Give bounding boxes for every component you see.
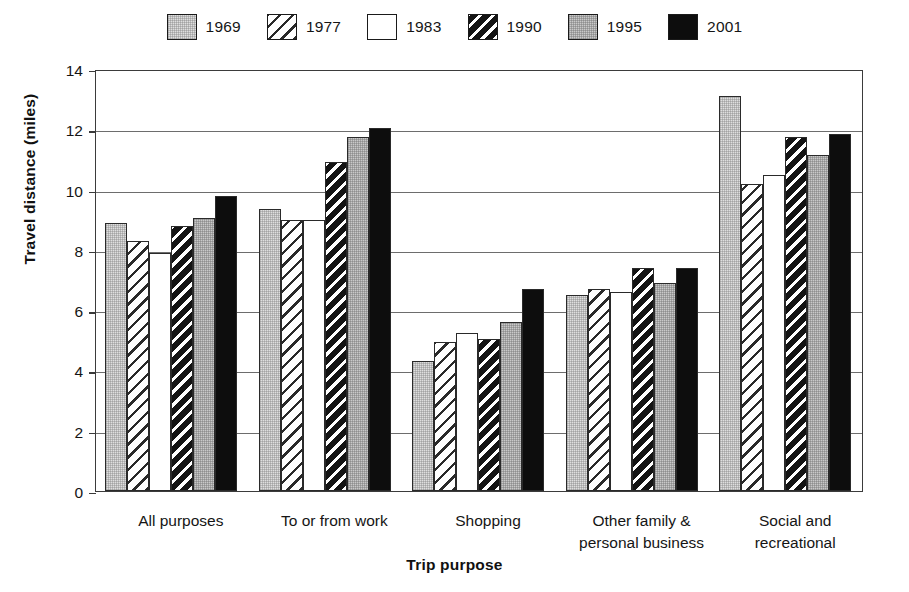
bar-1990-cat3 [632,268,654,491]
bar-2001-cat0 [215,196,237,491]
legend-swatch-1990 [468,14,498,40]
y-tick-label-10: 10 [66,183,83,201]
bar-1990-cat4 [785,137,807,491]
bar-1990-cat2 [478,339,500,491]
y-tickmark-4 [89,372,96,373]
y-tickmark-10 [89,192,96,193]
legend-item-1990: 1990 [468,14,542,40]
legend-label-1969: 1969 [206,18,241,36]
bar-chart: 196919771983199019952001 Travel distance… [0,0,909,592]
y-tick-label-4: 4 [74,363,83,381]
bars-layer [96,71,862,491]
x-category-label-2: Shopping [455,510,521,532]
bar-1977-cat2 [434,342,456,491]
y-tickmark-8 [89,252,96,253]
bar-1995-cat0 [193,218,215,491]
x-axis-title: Trip purpose [0,556,909,574]
x-category-label-1: To or from work [281,510,388,532]
bar-1977-cat1 [281,220,303,491]
legend-item-1977: 1977 [267,14,341,40]
y-tickmark-0 [89,493,96,494]
bar-1983-cat3 [610,292,632,491]
chart-legend: 196919771983199019952001 [0,14,909,40]
bar-1983-cat4 [763,175,785,492]
y-tick-label-12: 12 [66,122,83,140]
y-tickmark-2 [89,433,96,434]
bar-1977-cat4 [741,184,763,491]
bar-1995-cat4 [807,155,829,491]
x-category-label-0: All purposes [138,510,223,532]
bar-1990-cat1 [325,162,347,491]
legend-swatch-2001 [668,14,698,40]
legend-label-1995: 1995 [607,18,642,36]
bar-1969-cat3 [566,295,588,491]
legend-swatch-1969 [167,14,197,40]
plot-area: 02468101214 [95,70,863,492]
y-tick-label-8: 8 [74,243,83,261]
bar-1995-cat1 [347,137,369,491]
legend-swatch-1995 [568,14,598,40]
x-axis-tick-labels: All purposesTo or from workShoppingOther… [95,500,863,560]
legend-item-2001: 2001 [668,14,742,40]
bar-1969-cat4 [719,96,741,491]
y-tickmark-12 [89,131,96,132]
bar-1969-cat0 [105,223,127,491]
bar-2001-cat3 [676,268,698,491]
legend-item-1983: 1983 [367,14,441,40]
legend-swatch-1977 [267,14,297,40]
bar-1983-cat0 [149,253,171,491]
bar-1990-cat0 [171,226,193,491]
y-axis-title: Travel distance (miles) [21,0,39,389]
legend-item-1995: 1995 [568,14,642,40]
legend-swatch-1983 [367,14,397,40]
legend-label-1990: 1990 [507,18,542,36]
bar-1983-cat1 [303,220,325,491]
bar-2001-cat1 [369,128,391,491]
bar-2001-cat4 [829,134,851,491]
y-tickmark-6 [89,312,96,313]
x-category-label-3: Other family & personal business [579,510,704,554]
bar-1977-cat0 [127,241,149,491]
x-category-label-4: Social and recreational [755,510,836,554]
y-tick-label-2: 2 [74,424,83,442]
bar-1977-cat3 [588,289,610,491]
bar-1995-cat3 [654,283,676,491]
legend-item-1969: 1969 [167,14,241,40]
y-tick-label-6: 6 [74,303,83,321]
y-tick-label-0: 0 [74,484,83,502]
legend-label-1977: 1977 [306,18,341,36]
legend-label-2001: 2001 [707,18,742,36]
y-tickmark-14 [89,71,96,72]
bar-1969-cat1 [259,209,281,491]
y-tick-label-14: 14 [66,62,83,80]
bar-1983-cat2 [456,333,478,491]
legend-label-1983: 1983 [406,18,441,36]
bar-1969-cat2 [412,361,434,491]
bar-1995-cat2 [500,322,522,491]
bar-2001-cat2 [522,289,544,491]
